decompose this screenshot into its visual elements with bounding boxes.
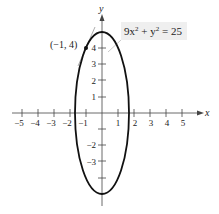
x-axis-arrow-icon [197, 111, 204, 116]
y-axis-label: y [98, 3, 104, 14]
y-tick-label: 2 [92, 76, 97, 86]
chart-svg: 9x2 + y2 = 25 x y −5 −4 −3 −2 −1 1 2 3 4… [0, 0, 219, 214]
y-tick-label: 4 [92, 43, 97, 53]
x-tick-label: 3 [149, 118, 154, 128]
x-tick-label: 2 [133, 118, 138, 128]
x-tick-label: −2 [62, 118, 72, 128]
x-tick-label: −4 [30, 118, 40, 128]
x-tick-label: 4 [165, 118, 170, 128]
x-axis-label: x [204, 107, 210, 118]
y-tick-label: 3 [92, 59, 97, 69]
x-tick-label: −1 [78, 118, 88, 128]
x-tick-label: −3 [46, 118, 56, 128]
y-tick-label: −3 [86, 157, 96, 167]
y-axis-arrow-icon [100, 14, 105, 21]
point-label: (−1, 4) [50, 39, 77, 51]
x-tick-label: −5 [14, 118, 24, 128]
ellipse-chart: 9x2 + y2 = 25 x y −5 −4 −3 −2 −1 1 2 3 4… [0, 0, 219, 214]
point-marker [84, 46, 88, 50]
x-tick-label: 5 [181, 118, 186, 128]
equation-label: 9x2 + y2 = 25 [124, 25, 182, 37]
y-tick-label: 1 [92, 92, 97, 102]
y-tick-label: −2 [86, 140, 96, 150]
x-tick-label: 1 [116, 118, 121, 128]
